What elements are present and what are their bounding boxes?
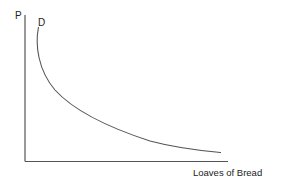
curve-label: D — [38, 18, 45, 28]
demand-curve-chart: P D Loaves of Bread — [0, 0, 285, 184]
demand-curve — [37, 27, 221, 153]
x-axis-label: Loaves of Bread — [193, 168, 262, 178]
y-axis-label: P — [15, 11, 22, 21]
